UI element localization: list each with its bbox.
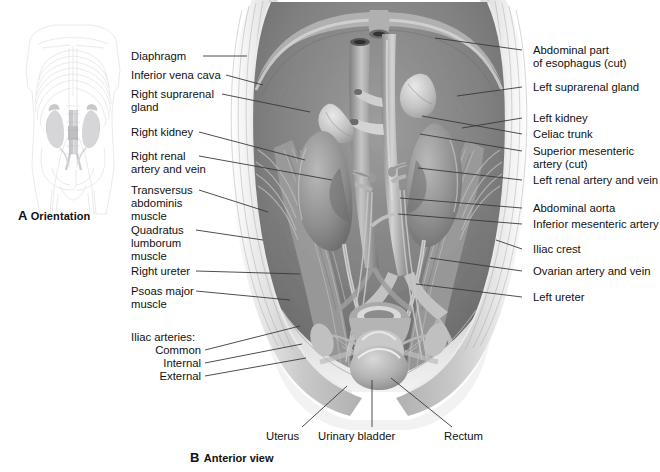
label-urinary-bladder: Urinary bladder	[318, 430, 395, 443]
label-rectum: Rectum	[444, 430, 483, 443]
label-iliac-crest: Iliac crest	[533, 243, 581, 256]
label-inferior-vena-cava: Inferior vena cava	[131, 69, 231, 82]
anterior-view-illustration	[222, 0, 536, 430]
label-left-renal-vessels: Left renal artery and vein	[533, 174, 658, 187]
label-iliac-common: Common	[131, 344, 201, 357]
label-transversus-abdominis: Transversus abdominis muscle	[131, 184, 231, 224]
label-abdominal-aorta: Abdominal aorta	[533, 202, 615, 215]
label-right-suprarenal-gland: Right suprarenal gland	[131, 88, 231, 114]
panel-a-letter: A	[18, 208, 28, 223]
label-right-kidney: Right kidney	[131, 126, 231, 139]
label-right-renal-vessels: Right renal artery and vein	[131, 150, 231, 176]
label-quadratus-lumborum: Quadratus lumborum muscle	[131, 224, 231, 264]
label-right-ureter: Right ureter	[131, 265, 231, 278]
label-iliac-internal: Internal	[131, 357, 201, 370]
label-left-ureter: Left ureter	[533, 291, 585, 304]
panel-a-title: Orientation	[31, 210, 91, 222]
label-abdominal-esophagus: Abdominal part of esophagus (cut)	[533, 44, 627, 70]
label-iliac-arteries-heading: Iliac arteries:	[131, 331, 195, 344]
figure-caption-partial	[0, 463, 660, 472]
label-celiac-trunk: Celiac trunk	[533, 128, 593, 141]
label-inferior-mesenteric-artery: Inferior mesenteric artery	[533, 218, 659, 231]
label-psoas-major: Psoas major muscle	[131, 285, 231, 311]
label-diaphragm: Diaphragm	[131, 50, 223, 63]
figure-page: A Orientation	[0, 0, 660, 472]
label-left-suprarenal-gland: Left suprarenal gland	[533, 81, 639, 94]
label-superior-mesenteric-artery: Superior mesenteric artery (cut)	[533, 145, 634, 171]
orientation-figure	[8, 18, 138, 228]
label-ovarian-vessels: Ovarian artery and vein	[533, 265, 650, 278]
label-iliac-external: External	[131, 370, 201, 383]
label-left-kidney: Left kidney	[533, 112, 588, 125]
label-uterus: Uterus	[266, 430, 299, 443]
